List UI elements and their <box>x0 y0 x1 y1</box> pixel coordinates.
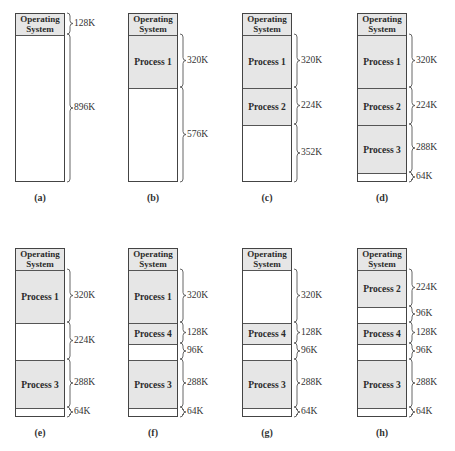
memory-panel-d: Operating SystemProcess 1Process 2Proces… <box>357 13 455 212</box>
panel-caption: (a) <box>15 192 65 203</box>
process-segment: Process 1 <box>16 270 64 323</box>
memory-column: Operating SystemProcess 1Process 2 <box>242 13 292 182</box>
free-segment <box>358 344 406 360</box>
curly-brace-icon <box>179 87 187 182</box>
curly-brace-icon <box>66 359 74 407</box>
segment-size-label: 288K <box>74 377 95 387</box>
curly-brace-icon <box>66 34 74 182</box>
curly-brace-icon <box>408 407 416 417</box>
curly-brace-icon <box>179 359 187 407</box>
free-segment <box>243 408 291 416</box>
panel-caption: (d) <box>357 192 407 203</box>
curly-brace-icon <box>293 269 301 322</box>
segment-size-label: 320K <box>301 55 322 65</box>
memory-column: Operating System <box>15 13 65 182</box>
curly-brace-icon <box>66 13 74 34</box>
segment-size-label: 320K <box>301 290 322 300</box>
segment-size-label: 64K <box>416 171 432 181</box>
process-segment: Process 2 <box>243 88 291 125</box>
curly-brace-icon <box>408 322 416 343</box>
segment-size-label: 96K <box>187 345 203 355</box>
curly-brace-icon <box>293 34 301 87</box>
memory-column: Operating SystemProcess 1 <box>128 13 178 182</box>
curly-brace-icon <box>179 407 187 417</box>
free-segment <box>16 323 64 360</box>
free-segment <box>129 408 177 416</box>
os-segment: Operating System <box>243 249 291 270</box>
curly-brace-icon <box>293 124 301 182</box>
panel-caption: (f) <box>128 427 178 438</box>
free-segment <box>358 408 406 416</box>
panel-caption: (e) <box>15 427 65 438</box>
free-segment <box>243 344 291 360</box>
segment-size-label: 128K <box>416 327 437 337</box>
free-segment <box>16 35 64 181</box>
segment-size-label: 96K <box>416 345 432 355</box>
memory-panel-a: Operating System128K896K(a) <box>15 13 125 212</box>
os-segment: Operating System <box>129 249 177 270</box>
memory-panel-b: Operating SystemProcess 1320K576K(b) <box>128 13 238 212</box>
curly-brace-icon <box>408 34 416 87</box>
process-segment: Process 3 <box>16 360 64 408</box>
curly-brace-icon <box>179 322 187 343</box>
segment-size-label: 64K <box>301 406 317 416</box>
curly-brace-icon <box>66 407 74 417</box>
memory-column: Operating SystemProcess 1Process 4Proces… <box>128 248 178 417</box>
panel-caption: (c) <box>242 192 292 203</box>
curly-brace-icon <box>179 343 187 359</box>
memory-column: Operating SystemProcess 2Process 4Proces… <box>357 248 407 417</box>
curly-brace-icon <box>66 269 74 322</box>
process-segment: Process 4 <box>358 323 406 344</box>
segment-size-label: 224K <box>416 282 437 292</box>
segment-size-label: 96K <box>301 345 317 355</box>
memory-panel-f: Operating SystemProcess 1Process 4Proces… <box>128 248 238 447</box>
process-segment: Process 1 <box>129 270 177 323</box>
process-segment: Process 3 <box>129 360 177 408</box>
memory-panel-c: Operating SystemProcess 1Process 2320K22… <box>242 13 352 212</box>
segment-size-label: 320K <box>187 290 208 300</box>
curly-brace-icon <box>408 87 416 124</box>
segment-size-label: 288K <box>301 377 322 387</box>
os-segment: Operating System <box>16 249 64 270</box>
free-segment <box>358 307 406 323</box>
segment-size-label: 288K <box>416 142 437 152</box>
curly-brace-icon <box>408 306 416 322</box>
curly-brace-icon <box>293 359 301 407</box>
curly-brace-icon <box>293 343 301 359</box>
curly-brace-icon <box>179 269 187 322</box>
segment-size-label: 288K <box>416 377 437 387</box>
segment-size-label: 64K <box>416 406 432 416</box>
segment-size-label: 128K <box>74 18 95 28</box>
process-segment: Process 1 <box>129 35 177 88</box>
curly-brace-icon <box>408 359 416 407</box>
curly-brace-icon <box>293 407 301 417</box>
segment-size-label: 320K <box>187 55 208 65</box>
memory-column: Operating SystemProcess 1Process 2Proces… <box>357 13 407 182</box>
os-segment: Operating System <box>358 249 406 270</box>
curly-brace-icon <box>293 87 301 124</box>
segment-size-label: 320K <box>416 55 437 65</box>
memory-column: Operating SystemProcess 1Process 3 <box>15 248 65 417</box>
curly-brace-icon <box>66 322 74 359</box>
curly-brace-icon <box>408 172 416 182</box>
process-segment: Process 1 <box>243 35 291 88</box>
segment-size-label: 64K <box>187 406 203 416</box>
process-segment: Process 2 <box>358 88 406 125</box>
process-segment: Process 3 <box>358 125 406 173</box>
os-segment: Operating System <box>358 14 406 35</box>
free-segment <box>129 88 177 181</box>
segment-size-label: 576K <box>187 129 208 139</box>
memory-panel-h: Operating SystemProcess 2Process 4Proces… <box>357 248 455 447</box>
os-segment: Operating System <box>16 14 64 35</box>
process-segment: Process 4 <box>129 323 177 344</box>
memory-panel-e: Operating SystemProcess 1Process 3320K22… <box>15 248 125 447</box>
process-segment: Process 4 <box>243 323 291 344</box>
panel-caption: (g) <box>242 427 292 438</box>
os-segment: Operating System <box>129 14 177 35</box>
os-segment: Operating System <box>243 14 291 35</box>
free-segment <box>358 173 406 181</box>
segment-size-label: 224K <box>74 335 95 345</box>
segment-size-label: 96K <box>416 308 432 318</box>
panel-caption: (h) <box>357 427 407 438</box>
curly-brace-icon <box>408 124 416 172</box>
